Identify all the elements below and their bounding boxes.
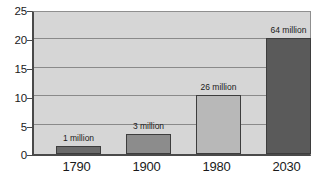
y-tick-label-5: 5 — [3, 122, 27, 133]
y-tick-label-10: 10 — [3, 93, 27, 104]
x-tick-label-1790: 1790 — [44, 159, 109, 175]
y-tick-label-15: 15 — [3, 64, 27, 75]
y-tick-label-25: 25 — [3, 6, 27, 17]
y-axis: 25 20 15 10 5 0 — [0, 0, 27, 179]
bar-label-1900: 3 million — [110, 122, 187, 131]
x-axis: 1790 1900 1980 2030 — [32, 159, 311, 179]
y-tick-label-0: 0 — [3, 150, 27, 161]
y-tick-label-20: 20 — [3, 35, 27, 46]
bar-group-1900: 3 million — [126, 12, 171, 154]
bar-1790 — [56, 146, 101, 154]
bar-group-1980: 26 million — [196, 12, 241, 154]
bar-label-1790: 1 million — [40, 134, 117, 143]
bar-1900 — [126, 134, 171, 154]
x-tick-label-2030: 2030 — [254, 159, 319, 175]
plot-area: 1 million 3 million 26 million 64 millio… — [32, 11, 311, 156]
x-tick-label-1900: 1900 — [114, 159, 179, 175]
bar-1980 — [196, 95, 241, 154]
bar-label-2030: 64 million — [250, 26, 319, 35]
bar-chart: 25 20 15 10 5 0 1 million 3 million 26 m — [0, 0, 319, 179]
bar-group-2030: 64 million — [266, 12, 311, 154]
bar-2030 — [266, 38, 311, 154]
x-tick-label-1980: 1980 — [184, 159, 249, 175]
bar-group-1790: 1 million — [56, 12, 101, 154]
bar-label-1980: 26 million — [180, 83, 257, 92]
